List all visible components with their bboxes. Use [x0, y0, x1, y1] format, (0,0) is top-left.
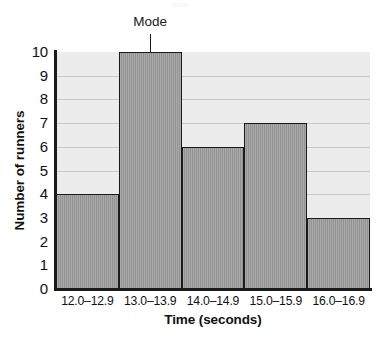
y-axis-tick-label: 1	[4, 257, 48, 272]
x-axis-tick-labels: 12.0–12.913.0–13.914.0–14.915.0–15.916.0…	[56, 293, 370, 313]
x-axis-tick-label: 15.0–15.9	[244, 293, 307, 313]
bar	[56, 194, 119, 289]
gridline	[56, 99, 370, 100]
plot-area	[56, 52, 370, 289]
y-axis-tick-label: 9	[4, 68, 48, 83]
gridline	[56, 123, 370, 124]
histogram-figure: Mode Mode 109876543210 12.0–12.913.0–13.…	[0, 0, 386, 338]
bar	[307, 218, 370, 289]
x-axis-tick-label: 12.0–12.9	[56, 293, 119, 313]
page-top-artifact: Mode	[120, 1, 240, 10]
x-axis-tick-label: 16.0–16.9	[307, 293, 370, 313]
mode-annotation-label: Mode	[118, 14, 182, 30]
y-axis-tick-label: 10	[4, 44, 48, 59]
y-axis-title: Number of runners	[12, 91, 27, 251]
x-axis-title: Time (seconds)	[56, 312, 370, 327]
bar	[244, 123, 307, 289]
x-axis-tick-label: 13.0–13.9	[119, 293, 182, 313]
bar	[182, 147, 245, 289]
bar	[119, 52, 182, 289]
mode-leader-line	[150, 34, 151, 52]
gridline	[56, 76, 370, 77]
x-axis-tick-label: 14.0–14.9	[182, 293, 245, 313]
mode-annotation: Mode	[118, 14, 182, 52]
y-axis-tick-label: 0	[4, 281, 48, 296]
